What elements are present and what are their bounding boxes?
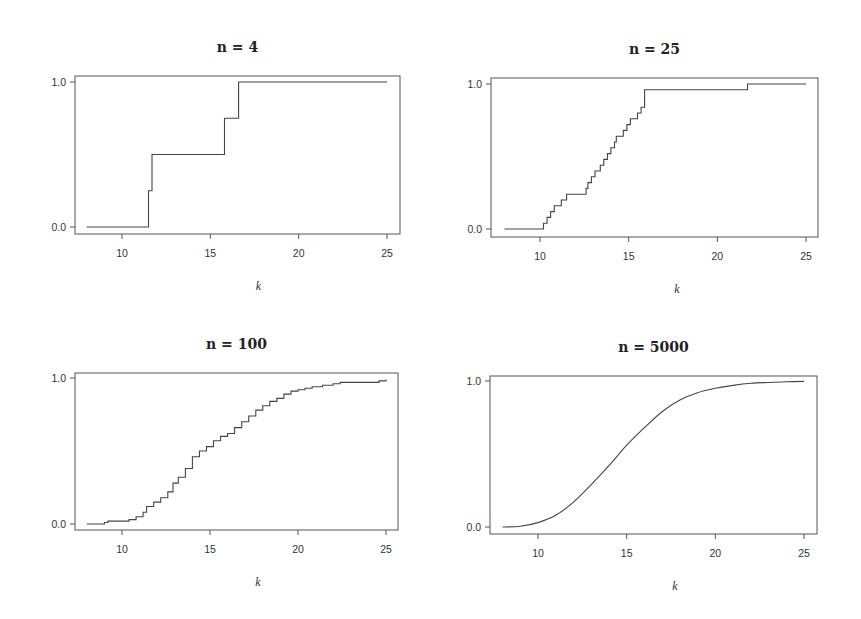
chart-title: n = 5000: [618, 339, 689, 355]
ecdf-curve: [87, 82, 387, 227]
x-tick-label: 15: [621, 547, 633, 559]
y-tick-label: 0.0: [51, 518, 66, 530]
x-tick-label: 25: [380, 543, 392, 555]
chart-title: n = 25: [629, 41, 680, 57]
y-tick-label: 0.0: [466, 521, 481, 533]
figure-canvas: n = 4101520250.01.0kn = 25101520250.01.0…: [0, 0, 861, 619]
y-tick-label: 1.0: [466, 375, 481, 387]
chart-panel-4: n = 5000101520250.01.0k: [466, 339, 817, 593]
x-tick-label: 25: [800, 250, 812, 262]
y-tick-label: 1.0: [467, 78, 482, 90]
chart-title: n = 4: [217, 39, 259, 55]
x-axis-label: k: [256, 279, 262, 293]
plot-frame: [490, 376, 817, 534]
ecdf-curve: [87, 380, 386, 525]
ecdf-curve: [503, 381, 805, 527]
chart-panel-1: n = 4101520250.01.0k: [51, 39, 400, 293]
y-tick-label: 0.0: [51, 221, 66, 233]
x-tick-label: 10: [116, 247, 128, 259]
x-tick-label: 15: [623, 250, 635, 262]
plot-frame: [491, 78, 818, 237]
plot-frame: [75, 373, 398, 530]
x-axis-label: k: [255, 575, 261, 589]
x-tick-label: 15: [204, 247, 216, 259]
chart-title: n = 100: [206, 336, 267, 352]
x-tick-label: 10: [532, 547, 544, 559]
y-tick-label: 0.0: [467, 223, 482, 235]
ecdf-curve: [505, 84, 807, 229]
x-tick-label: 25: [798, 547, 810, 559]
x-tick-label: 20: [293, 247, 305, 259]
x-tick-label: 20: [709, 547, 721, 559]
chart-panel-2: n = 25101520250.01.0k: [467, 41, 818, 296]
x-tick-label: 25: [381, 247, 393, 259]
x-tick-label: 10: [534, 250, 546, 262]
x-tick-label: 20: [292, 543, 304, 555]
plot-frame: [75, 76, 400, 234]
x-axis-label: k: [672, 579, 678, 593]
y-tick-label: 1.0: [51, 76, 66, 88]
x-tick-label: 20: [711, 250, 723, 262]
x-tick-label: 10: [116, 543, 128, 555]
chart-panel-3: n = 100101520250.01.0k: [51, 336, 398, 589]
x-axis-label: k: [674, 282, 680, 296]
x-tick-label: 15: [204, 543, 216, 555]
y-tick-label: 1.0: [51, 372, 66, 384]
